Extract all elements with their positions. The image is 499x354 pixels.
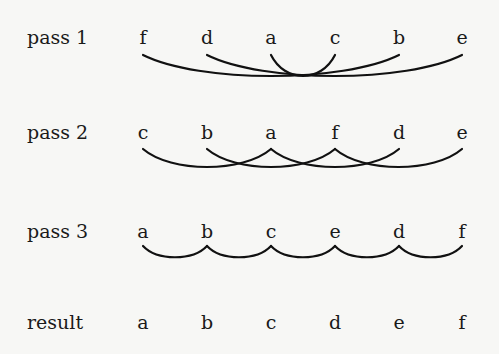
comparison-arc bbox=[207, 149, 335, 167]
element-pass-1-0: f bbox=[139, 28, 146, 47]
element-pass-3-3: e bbox=[329, 222, 340, 241]
element-result-3: d bbox=[329, 313, 341, 332]
element-pass-2-3: f bbox=[331, 123, 338, 142]
comparison-arc bbox=[271, 246, 335, 257]
comparison-arc bbox=[143, 246, 207, 257]
element-pass-2-1: b bbox=[201, 123, 213, 142]
comparison-arc bbox=[335, 246, 399, 257]
arcs-pass-1 bbox=[143, 55, 462, 76]
row-label-result: result bbox=[27, 313, 83, 332]
element-pass-1-3: c bbox=[330, 28, 341, 47]
element-result-1: b bbox=[201, 313, 213, 332]
element-result-2: c bbox=[266, 313, 277, 332]
element-result-5: f bbox=[458, 313, 465, 332]
element-pass-1-5: e bbox=[456, 28, 467, 47]
element-pass-2-4: d bbox=[393, 123, 405, 142]
element-pass-1-2: a bbox=[265, 28, 276, 47]
row-label-pass-2: pass 2 bbox=[27, 123, 88, 142]
comparison-arcs bbox=[0, 0, 499, 354]
element-pass-3-1: b bbox=[201, 222, 213, 241]
element-pass-2-5: e bbox=[456, 123, 467, 142]
comparison-arc bbox=[399, 246, 462, 257]
row-label-pass-3: pass 3 bbox=[27, 222, 88, 241]
element-pass-3-0: a bbox=[137, 222, 148, 241]
element-pass-2-2: a bbox=[265, 123, 276, 142]
comparison-arc bbox=[143, 149, 271, 167]
element-pass-3-2: c bbox=[266, 222, 277, 241]
arcs-pass-3 bbox=[143, 246, 462, 257]
element-pass-2-0: c bbox=[138, 123, 149, 142]
comparison-arc bbox=[271, 149, 399, 167]
element-pass-3-4: d bbox=[393, 222, 405, 241]
arcs-pass-2 bbox=[143, 149, 462, 167]
element-pass-1-1: d bbox=[201, 28, 213, 47]
element-result-0: a bbox=[137, 313, 148, 332]
element-pass-1-4: b bbox=[393, 28, 405, 47]
comparison-arc bbox=[335, 149, 462, 167]
comparison-arc bbox=[207, 246, 271, 257]
element-pass-3-5: f bbox=[458, 222, 465, 241]
element-result-4: e bbox=[393, 313, 404, 332]
row-label-pass-1: pass 1 bbox=[27, 28, 88, 47]
